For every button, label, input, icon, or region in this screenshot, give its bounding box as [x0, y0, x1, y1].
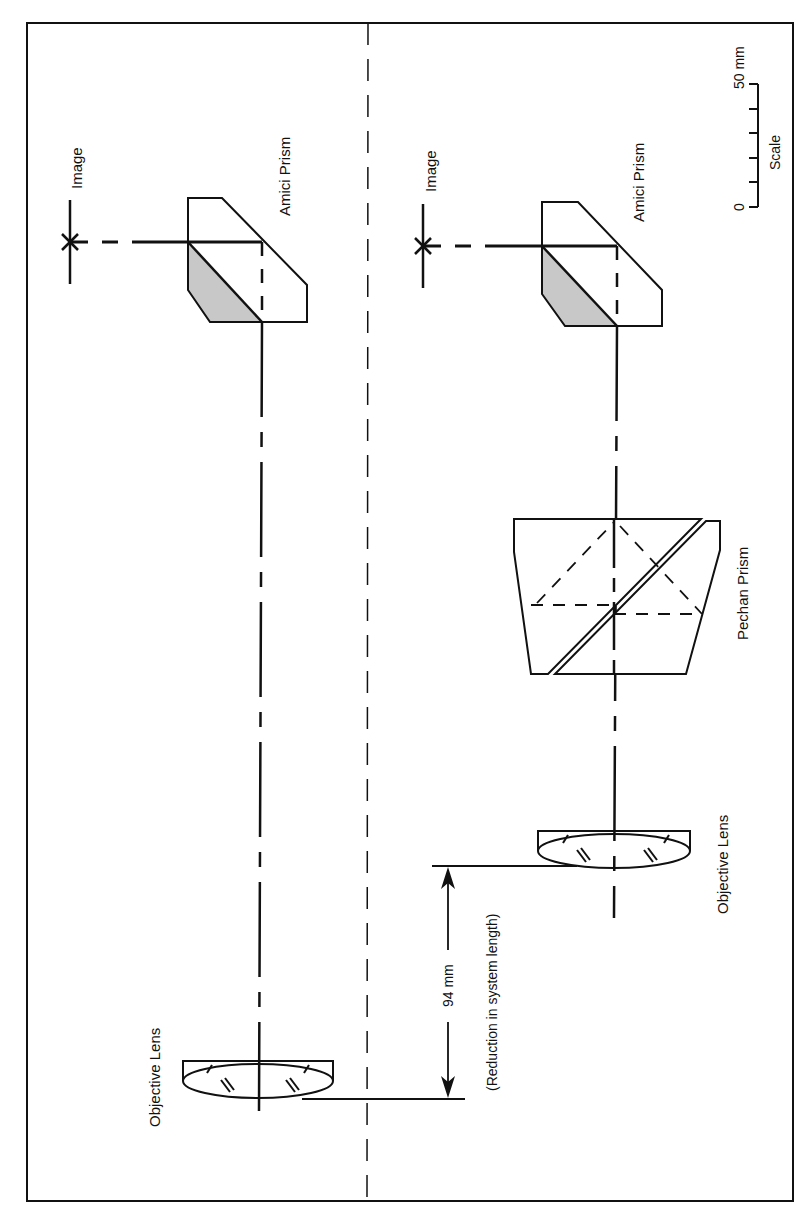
layout-divider: [367, 23, 368, 1201]
label-pechan: Pechan Prism: [734, 547, 751, 640]
dimension-note: (Reduction in system length): [484, 914, 500, 1091]
label-amici-right: Amici Prism: [630, 143, 647, 222]
label-amici-left: Amici Prism: [276, 137, 293, 216]
scale-bar: 50 mm 0 Scale: [731, 46, 783, 211]
layout-without-pechan: Image Amici Prism Objective Lens: [62, 137, 465, 1127]
optical-diagram: Image Amici Prism Objective Lens: [0, 0, 809, 1232]
label-image-right: Image: [422, 150, 439, 192]
optical-axis-left: [259, 322, 262, 1111]
scale-max-label: 50 mm: [731, 46, 747, 89]
label-image-left: Image: [68, 147, 85, 189]
label-objective-left: Objective Lens: [146, 1028, 163, 1127]
layout-with-pechan: Image Amici Prism Pechan Prism Objective…: [415, 143, 751, 918]
dimension-value: 94 mm: [440, 964, 456, 1007]
dimension-94mm: 94 mm (Reduction in system length): [440, 867, 500, 1098]
label-objective-right: Objective Lens: [714, 815, 731, 914]
scale-min-label: 0: [731, 203, 747, 211]
pechan-prism: [514, 519, 720, 674]
scale-title: Scale: [767, 135, 783, 170]
